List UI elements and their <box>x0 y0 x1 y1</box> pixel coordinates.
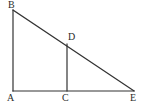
geometry-figure: B D A C E <box>0 0 143 105</box>
geometry-canvas <box>0 0 143 105</box>
vertex-label-d: D <box>68 32 75 42</box>
vertex-label-a: A <box>7 93 14 103</box>
vertex-label-c: C <box>62 93 69 103</box>
segment-BE <box>13 10 134 91</box>
vertex-label-e: E <box>130 93 136 103</box>
vertex-label-b: B <box>8 0 15 10</box>
